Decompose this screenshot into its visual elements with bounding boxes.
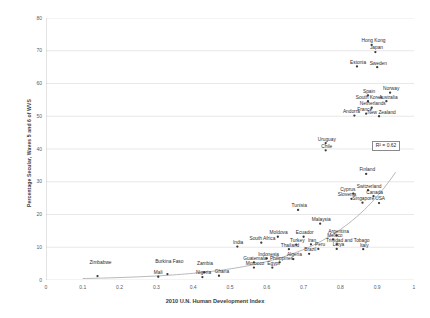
point-label: Finland <box>359 168 375 173</box>
x-tick-label: 0.6 <box>257 285 277 290</box>
point-label: Burkina Faso <box>155 260 183 265</box>
point-label: Turkey <box>290 239 304 244</box>
y-axis-title: Percentage Secular, Waves 5 and 6 of WVS <box>26 58 32 248</box>
point-label: Norway <box>383 87 399 92</box>
point-label: Netherlands <box>360 102 386 107</box>
y-tick-label: 70 <box>20 48 42 53</box>
point-label: Brazil <box>304 248 316 253</box>
point-label: New Zealand <box>367 110 395 115</box>
point-label: Chile <box>321 144 332 149</box>
y-tick-label: 60 <box>20 81 42 86</box>
point-label: Morocco <box>246 262 264 267</box>
y-tick-label: 80 <box>20 16 42 21</box>
point-label: Japan <box>370 46 383 51</box>
point-label: Thailand <box>281 243 299 248</box>
point-label: Libya <box>333 243 344 248</box>
point-label: Ecuador <box>296 231 314 236</box>
point-label: Ghana <box>215 270 229 275</box>
y-tick-label: 30 <box>20 179 42 184</box>
y-tick-label: 0 <box>20 278 42 283</box>
point-label: Canada <box>366 190 383 195</box>
point-label: India <box>233 241 243 246</box>
point-label: Uruguay <box>318 137 336 142</box>
x-tick-label: 0.1 <box>73 285 93 290</box>
point-label: USA <box>375 197 385 202</box>
x-tick-label: 1 <box>404 285 424 290</box>
point-label: South Africa <box>249 237 275 242</box>
x-tick-label: 0.7 <box>294 285 314 290</box>
x-tick-label: 0 <box>36 285 56 290</box>
point-label: Algeria <box>287 253 302 258</box>
point-label: Nigeria <box>196 271 211 276</box>
scatter-chart: Percentage Secular, Waves 5 and 6 of WVS… <box>0 0 430 318</box>
point-label: Mali <box>154 271 163 276</box>
x-axis-title: 2010 U.N. Human Development Index <box>0 298 430 304</box>
point-label: Australia <box>379 95 398 100</box>
x-tick-label: 0.2 <box>110 285 130 290</box>
point-label: Singapore <box>352 197 374 202</box>
point-label: Peru <box>315 243 325 248</box>
point-label: Zambia <box>197 261 213 266</box>
point-label: Indonesia <box>258 252 279 257</box>
y-tick-label: 10 <box>20 245 42 250</box>
x-tick-label: 0.3 <box>146 285 166 290</box>
point-label: Zimbabwe <box>89 260 111 265</box>
point-label: Iran <box>308 238 316 243</box>
plot-area: ZimbabweMaliBurkina FasoNigeriaZambiaGha… <box>46 18 414 280</box>
x-tick-label: 0.8 <box>330 285 350 290</box>
point-label: Sweden <box>370 61 387 66</box>
point-label: Tunisia <box>292 204 307 209</box>
y-tick-label: 50 <box>20 114 42 119</box>
x-tick-label: 0.4 <box>183 285 203 290</box>
y-tick-label: 40 <box>20 147 42 152</box>
point-label: Estonia <box>350 60 366 65</box>
point-label: Spain <box>363 89 375 94</box>
x-tick-label: 0.5 <box>220 285 240 290</box>
point-label: Moldova <box>269 231 287 236</box>
y-tick-label: 20 <box>20 212 42 217</box>
point-label: Hong Kong <box>362 39 386 44</box>
point-label: Egypt <box>267 262 279 267</box>
point-label: Mexico <box>327 233 342 238</box>
point-label: Italy <box>360 243 369 248</box>
point-label: Switzerland <box>357 184 382 189</box>
point-label: Malaysia <box>312 218 331 223</box>
r-squared-annotation: R² = 0.62 <box>372 141 401 151</box>
point-label: Cyprus <box>340 188 355 193</box>
x-tick-label: 0.9 <box>367 285 387 290</box>
